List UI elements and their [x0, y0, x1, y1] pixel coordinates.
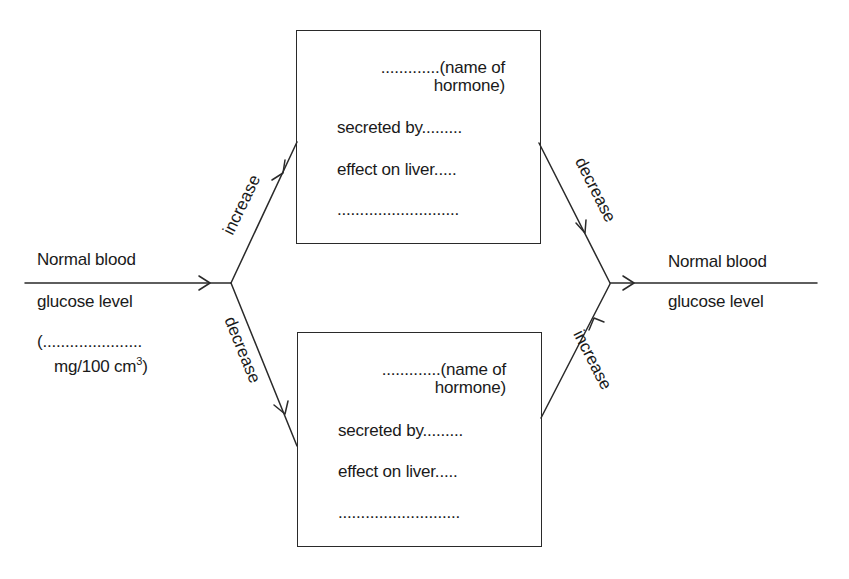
hormone-box-increase: .............(name of hormone) secreted …	[296, 30, 541, 244]
extra-blank-line: ...........................	[337, 200, 459, 220]
hormone-name-blank: .............(name of	[382, 360, 506, 380]
hormone-box-decrease: .............(name of hormone) secreted …	[297, 332, 542, 547]
secreted-by-blank: secreted by.........	[338, 421, 463, 441]
right-label-line1: Normal blood	[668, 252, 767, 272]
units-close: )	[142, 357, 147, 376]
left-label-blank: (......................	[37, 332, 142, 352]
hormone-name-label: hormone)	[435, 378, 506, 398]
right-label-line2: glucose level	[668, 292, 764, 312]
secreted-by-blank: secreted by.........	[337, 118, 462, 138]
hormone-name-label: hormone)	[434, 76, 505, 96]
effect-on-liver-blank: effect on liver.....	[338, 462, 457, 482]
left-label-units: mg/100 cm3)	[54, 357, 148, 377]
units-text: mg/100 cm	[54, 357, 136, 376]
increase-arrowhead-icon	[272, 160, 285, 180]
effect-on-liver-blank: effect on liver.....	[337, 160, 456, 180]
left-label-line1: Normal blood	[37, 250, 136, 270]
left-label-line2: glucose level	[37, 292, 133, 312]
hormone-name-blank: .............(name of	[381, 58, 505, 78]
extra-blank-line: ...........................	[338, 503, 460, 523]
